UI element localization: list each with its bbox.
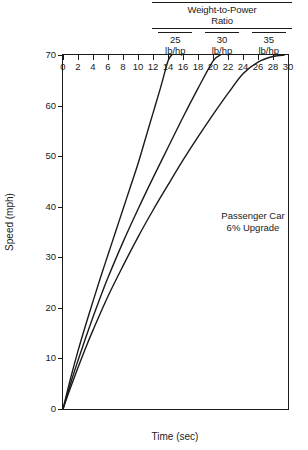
x-tick-label: 20 [208, 62, 219, 72]
legend-column-rule [205, 32, 239, 33]
legend-column-25: 25 lb/hp [152, 32, 199, 56]
x-tick-label: 24 [238, 62, 249, 72]
y-tick-mark [58, 207, 63, 208]
x-tick-mark [78, 55, 79, 60]
x-tick-mark [183, 55, 184, 60]
legend-title: Weight-to-Power Ratio [152, 3, 292, 28]
x-tick-label: 12 [148, 62, 159, 72]
x-tick-mark [168, 55, 169, 60]
y-tick-mark [58, 156, 63, 157]
y-tick-mark [58, 106, 63, 107]
legend-mid-rule [152, 28, 292, 29]
y-tick-label: 40 [45, 202, 56, 212]
legend-title-line2: Ratio [211, 15, 233, 26]
chart-annotation: Passenger Car 6% Upgrade [221, 210, 284, 234]
legend-column-rule [158, 32, 192, 33]
x-tick-mark [123, 55, 124, 60]
y-tick-label: 10 [45, 354, 56, 364]
y-tick-mark [58, 308, 63, 309]
annotation-line1: Passenger Car [221, 210, 284, 222]
x-tick-mark [63, 55, 64, 60]
legend-columns: 25 lb/hp 30 lb/hp 35 lb/hp [152, 32, 292, 56]
x-tick-mark [153, 55, 154, 60]
x-tick-label: 14 [163, 62, 174, 72]
x-tick-mark [288, 55, 289, 60]
y-tick-label: 30 [45, 253, 56, 263]
y-tick-mark [58, 409, 63, 410]
x-tick-label: 6 [105, 62, 110, 72]
x-tick-label: 8 [120, 62, 125, 72]
x-tick-label: 26 [253, 62, 264, 72]
x-tick-mark [93, 55, 94, 60]
y-tick-label: 20 [45, 303, 56, 313]
legend-ratio-value: 35 [245, 35, 292, 46]
legend-column-rule [252, 32, 286, 33]
x-tick-mark [273, 55, 274, 60]
x-tick-label: 18 [193, 62, 204, 72]
y-tick-label: 70 [45, 50, 56, 60]
x-tick-label: 30 [283, 62, 294, 72]
y-tick-mark [58, 257, 63, 258]
x-tick-mark [198, 55, 199, 60]
x-tick-label: 22 [223, 62, 234, 72]
y-axis-label: Speed (mph) [4, 193, 15, 251]
y-tick-label: 0 [51, 404, 56, 414]
y-tick-label: 60 [45, 101, 56, 111]
legend-title-line1: Weight-to-Power [187, 4, 256, 15]
x-tick-label: 2 [75, 62, 80, 72]
x-tick-mark [228, 55, 229, 60]
legend-column-30: 30 lb/hp [199, 32, 246, 56]
x-tick-label: 28 [268, 62, 279, 72]
x-axis-label: Time (sec) [152, 431, 199, 442]
x-tick-mark [138, 55, 139, 60]
chart-line-30-lb-hp [63, 55, 221, 409]
legend-ratio-value: 30 [199, 35, 246, 46]
x-tick-mark [258, 55, 259, 60]
plot-area: Passenger Car 6% Upgrade 010203040506070… [62, 54, 289, 410]
x-tick-label: 0 [60, 62, 65, 72]
x-tick-mark [213, 55, 214, 60]
y-tick-mark [58, 358, 63, 359]
y-tick-label: 50 [45, 151, 56, 161]
x-tick-label: 16 [178, 62, 189, 72]
x-tick-mark [243, 55, 244, 60]
x-tick-label: 4 [90, 62, 95, 72]
x-tick-mark [108, 55, 109, 60]
legend-ratio-value: 25 [152, 35, 199, 46]
legend-column-35: 35 lb/hp [245, 32, 292, 56]
x-tick-label: 10 [133, 62, 144, 72]
legend-table: Weight-to-Power Ratio 25 lb/hp 30 lb/hp … [152, 2, 292, 56]
annotation-line2: 6% Upgrade [221, 222, 284, 234]
